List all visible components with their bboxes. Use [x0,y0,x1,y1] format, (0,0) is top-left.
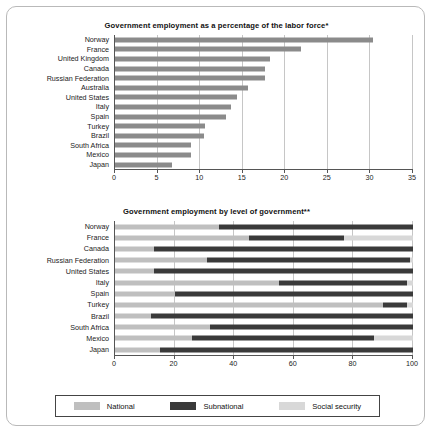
bar-row[interactable] [115,54,413,64]
bar-segment-national[interactable] [115,246,154,251]
category-label: Norway [7,221,113,232]
bar[interactable] [115,37,373,42]
legend-swatch-icon [279,402,305,410]
bar-row[interactable] [115,160,413,170]
bar-row[interactable] [115,288,413,299]
bar-row[interactable] [115,121,413,131]
bar-segment-subnational[interactable] [210,325,413,330]
bar-row[interactable] [115,45,413,55]
legend-label: Social security [312,402,361,411]
bar[interactable] [115,104,231,109]
bar-segment-subnational[interactable] [160,347,413,352]
category-label: United Kingdom [7,54,113,64]
category-label: Japan [7,344,113,355]
bar-row[interactable] [115,141,413,151]
bar-row[interactable] [115,221,413,232]
bar-row[interactable] [115,255,413,266]
bar-segment-national[interactable] [115,280,279,285]
bar-segment-national[interactable] [115,235,249,240]
bar[interactable] [115,162,172,167]
bars-container-bottom [114,221,413,356]
bar-row[interactable] [115,150,413,160]
bar[interactable] [115,114,226,119]
category-label: Canada [7,64,113,74]
bar-segment-social-security[interactable] [407,280,413,285]
bar-row[interactable] [115,64,413,74]
bar-row[interactable] [115,83,413,93]
bar-row[interactable] [115,277,413,288]
bar-row[interactable] [115,131,413,141]
category-label: Russian Federation [7,73,113,83]
bar[interactable] [115,133,204,138]
bar-segment-subnational[interactable] [279,280,407,285]
bar-row[interactable] [115,299,413,310]
category-label: Mexico [7,333,113,344]
bar-row[interactable] [115,333,413,344]
bar[interactable] [115,47,301,52]
axis-tick-label: 35 [408,173,416,182]
axis-tick-label: 0 [112,359,116,368]
bar-segment-subnational[interactable] [151,314,413,319]
plot-area-bottom: NorwayFranceCanadaRussian FederationUnit… [7,221,425,371]
bar-row[interactable] [115,102,413,112]
bar-segment-national[interactable] [115,347,160,352]
axis-tick-label: 80 [348,359,356,368]
bar-row[interactable] [115,311,413,322]
bar-segment-subnational[interactable] [175,291,413,296]
bar-row[interactable] [115,344,413,355]
figure-card: Government employment as a percentage of… [6,6,425,426]
bar[interactable] [115,124,205,129]
bar-segment-social-security[interactable] [374,336,413,341]
bar[interactable] [115,143,191,148]
bar-segment-social-security[interactable] [410,258,413,263]
bar-row[interactable] [115,112,413,122]
bar-row[interactable] [115,266,413,277]
legend: NationalSubnationalSocial security [55,395,380,417]
bar-segment-social-security[interactable] [407,302,413,307]
bar-segment-national[interactable] [115,269,154,274]
bar-segment-subnational[interactable] [192,336,374,341]
bar[interactable] [115,56,270,61]
legend-item-subnational[interactable]: Subnational [170,402,243,411]
bar[interactable] [115,152,191,157]
bar-segment-national[interactable] [115,336,192,341]
bar-row[interactable] [115,35,413,45]
bar-segment-subnational[interactable] [154,269,413,274]
category-label: Australia [7,83,113,93]
bar-segment-subnational[interactable] [219,224,413,229]
bar-row[interactable] [115,243,413,254]
bar-segment-national[interactable] [115,314,151,319]
category-label: Turkey [7,299,113,310]
category-labels-top: NorwayFranceUnited KingdomCanadaRussian … [7,35,113,169]
bar-segment-national[interactable] [115,224,219,229]
bar[interactable] [115,66,265,71]
plot-area-top: NorwayFranceUnited KingdomCanadaRussian … [7,35,425,187]
bar-row[interactable] [115,232,413,243]
axis-tick-label: 40 [229,359,237,368]
bar-segment-social-security[interactable] [344,235,413,240]
bar-segment-subnational[interactable] [207,258,410,263]
bar-row[interactable] [115,93,413,103]
legend-label: Subnational [203,402,243,411]
category-label: Spain [7,112,113,122]
chart-panel-level-of-government: Government employment by level of govern… [7,207,425,371]
bar[interactable] [115,76,265,81]
bar-segment-national[interactable] [115,291,175,296]
bar[interactable] [115,85,248,90]
bar-segment-national[interactable] [115,302,383,307]
bar-row[interactable] [115,73,413,83]
bar-row[interactable] [115,322,413,333]
bar-segment-national[interactable] [115,325,210,330]
category-label: Russian Federation [7,255,113,266]
bar-segment-subnational[interactable] [249,235,344,240]
axis-tick-label: 20 [170,359,178,368]
bar-segment-subnational[interactable] [154,246,413,251]
bar[interactable] [115,95,237,100]
legend-item-social-security[interactable]: Social security [279,402,361,411]
bar-segment-national[interactable] [115,258,207,263]
bars-container-top [114,35,413,170]
bar-segment-subnational[interactable] [383,302,407,307]
category-label: Japan [7,160,113,170]
category-label: Brazil [7,131,113,141]
legend-item-national[interactable]: National [74,402,135,411]
